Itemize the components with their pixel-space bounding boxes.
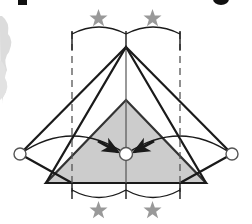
star-top-left-icon bbox=[89, 9, 107, 26]
scan-ink-smudge-secondary bbox=[0, 60, 7, 100]
cropped-text-glyph-left bbox=[18, 0, 27, 5]
bottom-brace-arc-left bbox=[72, 190, 126, 198]
star-bottom-left-icon bbox=[89, 201, 107, 218]
geometric-construction-diagram bbox=[0, 0, 252, 224]
left-hinge-circle bbox=[14, 148, 26, 160]
top-brace-arc-right bbox=[126, 27, 180, 34]
center-hinge-circle bbox=[120, 148, 133, 161]
star-top-right-icon bbox=[143, 9, 161, 26]
figure-root bbox=[0, 0, 252, 224]
right-hinge-circle bbox=[226, 148, 238, 160]
bottom-measurement-brace bbox=[72, 184, 180, 199]
page-artifacts-group bbox=[0, 0, 229, 104]
cropped-text-glyph-right bbox=[213, 0, 229, 5]
top-brace-arc-left bbox=[72, 27, 126, 34]
top-measurement-brace bbox=[72, 27, 180, 50]
star-bottom-right-icon bbox=[143, 201, 161, 218]
bottom-brace-arc-right bbox=[126, 190, 180, 198]
